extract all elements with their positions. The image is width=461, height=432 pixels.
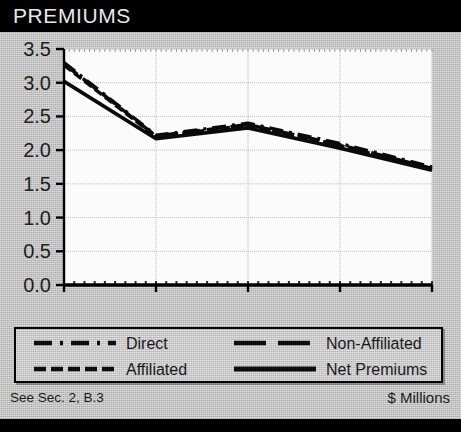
- legend-label: Non-Affiliated: [326, 336, 422, 352]
- source-note: See Sec. 2, B.3: [10, 390, 104, 405]
- x-tick-label: 2007: [397, 294, 444, 298]
- legend-label: Net Premiums: [326, 362, 427, 378]
- legend-item-direct[interactable]: Direct: [32, 329, 232, 357]
- chart-legend: Direct Non-Affiliated Affiliated: [14, 327, 443, 383]
- units-label: $ Millions: [387, 389, 450, 406]
- legend-label: Direct: [126, 336, 168, 352]
- y-tick-label: 2.0: [23, 139, 51, 161]
- chart-plot-area: 0.00.51.01.52.02.53.03.5 200320052007: [9, 36, 452, 298]
- legend-swatch-solid-icon: [232, 362, 318, 376]
- legend-item-non-affiliated[interactable]: Non-Affiliated: [232, 329, 444, 357]
- legend-swatch-dash-dot-icon: [32, 336, 118, 350]
- x-tick-label: 2003: [52, 294, 99, 298]
- y-tick-label: 2.5: [23, 105, 51, 127]
- y-tick-label: 3.0: [23, 72, 51, 94]
- legend-item-affiliated[interactable]: Affiliated: [32, 355, 232, 383]
- line-chart-svg: 0.00.51.01.52.02.53.03.5 200320052007: [9, 36, 452, 298]
- y-tick-label: 0.5: [23, 240, 51, 262]
- title-bar: PREMIUMS: [0, 0, 461, 32]
- page-title: PREMIUMS: [13, 4, 131, 28]
- y-tick-label: 3.5: [23, 38, 51, 60]
- y-tick-label: 1.5: [23, 173, 51, 195]
- bottom-bar: [0, 419, 461, 432]
- y-tick-label: 0.0: [23, 274, 51, 296]
- y-axis-tick-labels: 0.00.51.01.52.02.53.03.5: [23, 38, 51, 296]
- x-axis-tick-labels: 200320052007: [52, 294, 444, 298]
- chart-screenshot: PREMIUMS 0.00.51.01.52.02.53.: [0, 0, 461, 432]
- legend-item-net-premiums[interactable]: Net Premiums: [232, 355, 444, 383]
- y-tick-label: 1.0: [23, 207, 51, 229]
- x-tick-label: 2005: [225, 294, 272, 298]
- legend-row: Direct Non-Affiliated: [16, 329, 445, 357]
- legend-row: Affiliated Net Premiums: [16, 355, 445, 383]
- legend-swatch-short-dash-icon: [32, 362, 118, 376]
- legend-label: Affiliated: [126, 362, 187, 378]
- legend-swatch-long-dash-icon: [232, 336, 318, 350]
